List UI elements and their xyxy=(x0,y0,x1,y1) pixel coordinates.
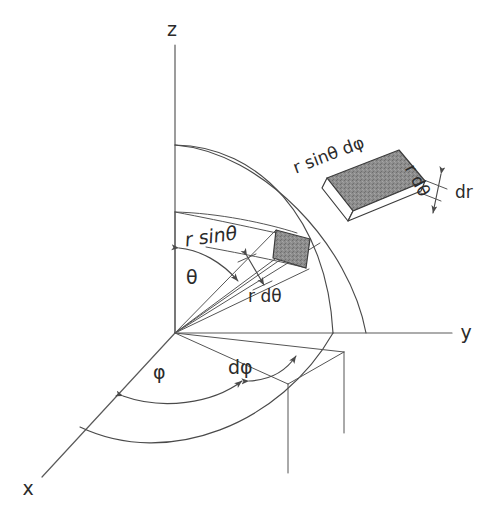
z-axis-label: z xyxy=(167,18,177,40)
r-sin-theta-label: r sinθ xyxy=(183,221,239,250)
dphi-label: dφ xyxy=(228,356,253,378)
axis-lines xyxy=(42,45,452,477)
phi-arc xyxy=(123,381,242,403)
x-axis-line xyxy=(42,333,175,477)
ray-equator-phi-dphi xyxy=(175,333,344,352)
r-d-theta-label: r dθ xyxy=(248,286,282,306)
r-dtheta-indicator xyxy=(238,254,272,290)
figure-canvas: z y x θ φ dφ r sinθ r dθ r sinθ dφ r dθ … xyxy=(0,0,495,516)
phi-angle-arc xyxy=(123,381,242,403)
sphere-octant-arcs xyxy=(80,145,366,473)
phi-label: φ xyxy=(153,361,166,383)
dphi-wedge-chord xyxy=(288,352,344,384)
y-axis-label: y xyxy=(460,321,471,343)
spherical-coordinates-figure: z y x θ φ dφ r sinθ r dθ r sinθ dφ r dθ … xyxy=(0,0,495,516)
dr-dimension-arrow xyxy=(433,174,441,213)
surface-patch xyxy=(273,230,310,268)
x-axis-label: x xyxy=(22,477,33,499)
equator-ellipse-arc xyxy=(80,333,333,443)
inset-dr-label: dr xyxy=(455,182,473,202)
theta-label: θ xyxy=(186,266,198,288)
surface-patch-face xyxy=(273,230,310,268)
